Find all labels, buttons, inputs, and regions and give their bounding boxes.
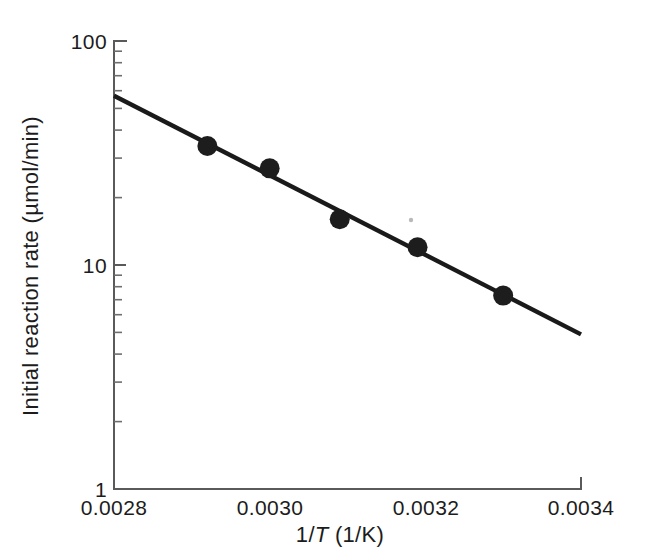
y-axis-title: Initial reaction rate (µmol/min) bbox=[18, 116, 43, 416]
scan-artifact-speck bbox=[409, 218, 413, 222]
arrhenius-plot-figure: 100 10 1 0.0028 0.0030 0.0032 0.0034 1/T… bbox=[0, 0, 656, 560]
x-tick-label-1: 0.0030 bbox=[237, 496, 304, 519]
data-point-1 bbox=[260, 158, 280, 178]
chart-canvas: 100 10 1 0.0028 0.0030 0.0032 0.0034 1/T… bbox=[0, 0, 656, 560]
data-point-0 bbox=[197, 136, 217, 156]
x-axis-title: 1/T (1/K) bbox=[296, 522, 384, 547]
data-point-3 bbox=[408, 237, 428, 257]
x-tick-labels: 0.0028 0.0030 0.0032 0.0034 bbox=[81, 496, 615, 519]
x-tick-label-2: 0.0032 bbox=[393, 496, 460, 519]
data-point-2 bbox=[330, 209, 350, 229]
x-tick-label-3: 0.0034 bbox=[548, 496, 615, 519]
axes-group bbox=[114, 41, 581, 489]
y-tick-labels: 100 10 1 bbox=[71, 30, 107, 501]
y-tick-label-10: 10 bbox=[83, 254, 107, 277]
y-minor-ticks bbox=[114, 51, 122, 421]
y-tick-label-100: 100 bbox=[71, 30, 107, 53]
data-point-4 bbox=[493, 286, 513, 306]
x-tick-label-0: 0.0028 bbox=[81, 496, 148, 519]
